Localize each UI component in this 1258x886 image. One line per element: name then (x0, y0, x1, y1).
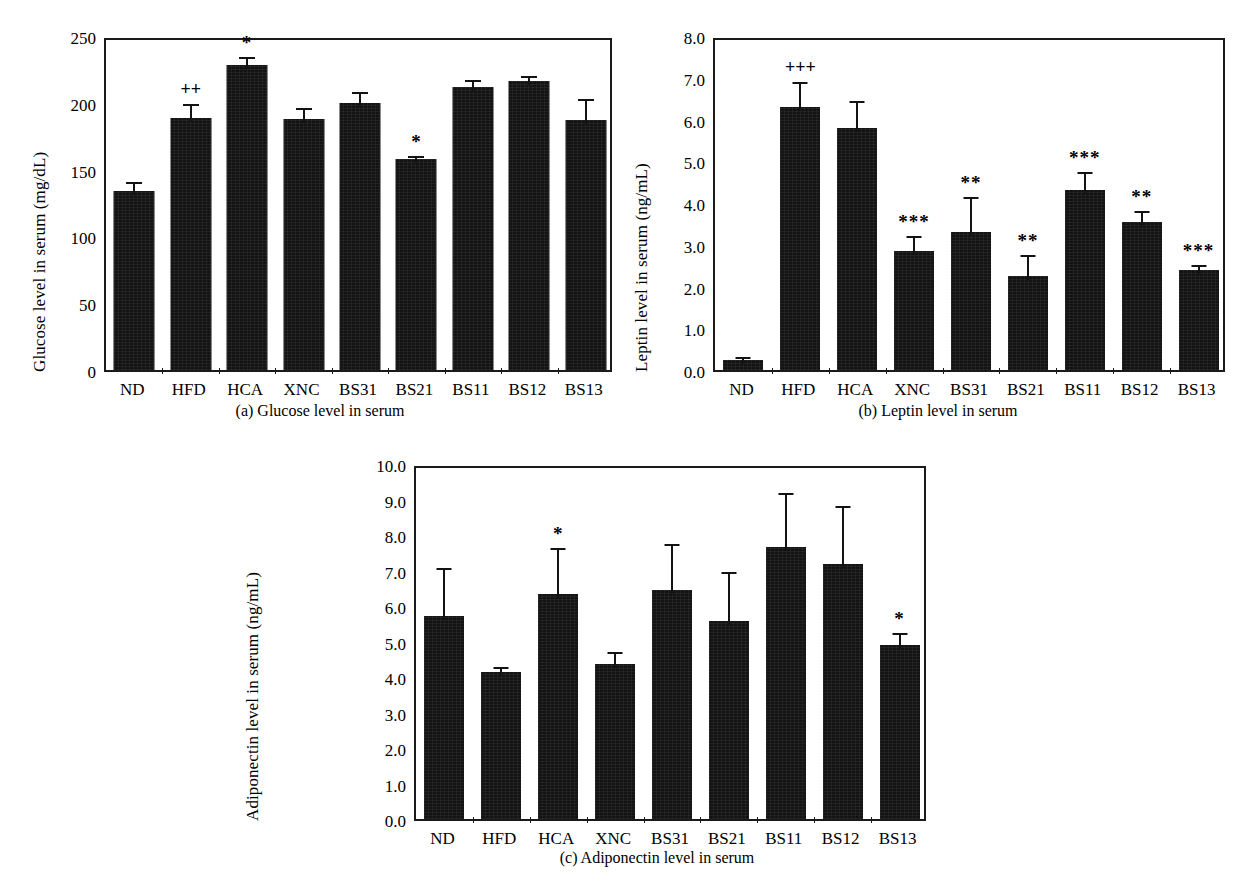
y-tick-label: 2.0 (348, 742, 406, 759)
bar (538, 594, 578, 819)
bars-layer: ** (416, 468, 924, 819)
x-tick-label: BS11 (765, 830, 802, 847)
y-tick-label: 6.0 (348, 600, 406, 617)
x-tick-label: ND (430, 830, 455, 847)
bar-group (416, 468, 473, 819)
error-bar (785, 493, 787, 552)
y-tick-label: 9.0 (348, 493, 406, 510)
x-tick-mark (530, 817, 531, 823)
bar (880, 645, 920, 819)
bar (652, 590, 692, 819)
error-bar (842, 506, 844, 568)
error-bar-cap (664, 544, 679, 546)
y-tick-label: 4.0 (348, 671, 406, 688)
y-axis-label: Adiponectin level in serum (ng/mL) (243, 572, 263, 821)
x-tick-mark (871, 817, 872, 823)
y-tick-label: 0.0 (348, 813, 406, 830)
panel-subcaption: (c) Adiponectin level in serum (560, 849, 755, 867)
error-bar-cap (835, 506, 850, 508)
error-bar (728, 572, 730, 625)
y-tick-label: 1.0 (348, 777, 406, 794)
bar-group (700, 468, 757, 819)
x-tick-mark (757, 817, 758, 823)
bar (709, 621, 749, 819)
bar (823, 564, 863, 819)
bar-group: * (530, 468, 587, 819)
error-bar-cap (892, 633, 907, 635)
bar-group (757, 468, 814, 819)
error-bar (671, 544, 673, 594)
error-bar (443, 568, 445, 619)
y-tick-label: 7.0 (348, 564, 406, 581)
plot-area: ** (414, 466, 926, 821)
x-tick-label: BS21 (708, 830, 746, 847)
bar-group (473, 468, 530, 819)
significance-marker: * (553, 524, 564, 543)
bar-group: * (871, 468, 928, 819)
panel-adiponectin: Adiponectin level in serum (ng/mL)0.01.0… (0, 0, 1258, 886)
x-tick-mark (587, 817, 588, 823)
bar (424, 616, 464, 819)
bar (481, 672, 521, 819)
x-tick-mark (473, 817, 474, 823)
bar-group (587, 468, 644, 819)
bar-group (644, 468, 701, 819)
error-bar (899, 633, 901, 649)
x-tick-mark (814, 817, 815, 823)
x-tick-label: BS13 (879, 830, 917, 847)
y-tick-label: 8.0 (348, 529, 406, 546)
bar (595, 664, 635, 819)
error-bar-cap (494, 667, 509, 669)
x-tick-label: BS12 (822, 830, 860, 847)
error-bar (614, 652, 616, 668)
error-bar-cap (437, 568, 452, 570)
error-bar-cap (551, 548, 566, 550)
error-bar-cap (608, 652, 623, 654)
x-tick-label: HFD (482, 830, 516, 847)
error-bar-cap (778, 493, 793, 495)
x-tick-label: XNC (595, 830, 631, 847)
error-bar-cap (721, 572, 736, 574)
error-bar (557, 548, 559, 598)
bar (766, 547, 806, 819)
y-tick-label: 10.0 (348, 458, 406, 475)
bar-group (814, 468, 871, 819)
figure-root: Glucose level in serum (mg/dL)0501001502… (0, 0, 1258, 886)
x-tick-label: BS31 (651, 830, 689, 847)
y-tick-label: 5.0 (348, 635, 406, 652)
y-tick-label: 3.0 (348, 706, 406, 723)
significance-marker: * (894, 609, 905, 628)
x-tick-label: HCA (538, 830, 574, 847)
x-tick-mark (644, 817, 645, 823)
x-tick-mark (700, 817, 701, 823)
